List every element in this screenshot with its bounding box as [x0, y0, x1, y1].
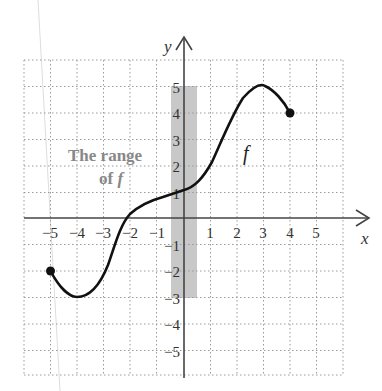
svg-text:−3: −3 [95, 225, 111, 241]
svg-text:−3: −3 [164, 291, 180, 307]
svg-text:4: 4 [173, 106, 181, 122]
svg-text:5: 5 [312, 225, 320, 241]
svg-text:2: 2 [173, 159, 181, 175]
end-point [286, 109, 295, 118]
svg-text:2: 2 [233, 225, 241, 241]
start-point [46, 267, 55, 276]
range-label-line2: of f [99, 169, 125, 188]
svg-text:−2: −2 [164, 264, 180, 280]
svg-text:3: 3 [173, 133, 181, 149]
svg-text:5: 5 [173, 80, 181, 96]
scan-line [38, 0, 60, 391]
svg-text:−5: −5 [164, 344, 180, 360]
function-graph: x y −5 −4 −3 −2 −1 1 2 3 4 5 5 4 3 2 1 −… [0, 0, 382, 391]
svg-text:−2: −2 [122, 225, 138, 241]
svg-text:−4: −4 [69, 225, 85, 241]
svg-text:−4: −4 [164, 317, 180, 333]
svg-text:3: 3 [259, 225, 267, 241]
svg-text:−5: −5 [42, 225, 58, 241]
svg-text:1: 1 [206, 225, 214, 241]
svg-text:−1: −1 [164, 238, 180, 254]
y-axis-label: y [162, 37, 172, 56]
svg-text:4: 4 [286, 225, 294, 241]
svg-text:−1: −1 [149, 225, 165, 241]
range-label-line1: The range [68, 146, 143, 165]
x-axis-label: x [360, 229, 369, 248]
curve-label: f [243, 142, 251, 165]
